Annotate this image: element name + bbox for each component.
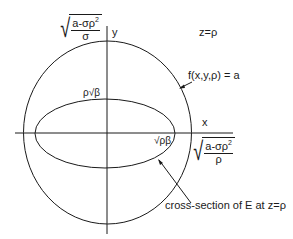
- x-intercept-inner-label: √ρβ: [154, 136, 171, 146]
- numerator: a-σρ: [72, 17, 95, 29]
- exponent: 2: [228, 139, 232, 146]
- y-intercept-outer-label: √ a-σρ2 σ: [58, 14, 102, 43]
- numerator: a-σρ: [205, 140, 228, 152]
- denominator: σ: [82, 31, 89, 43]
- outer-curve-label: f(x,y,ρ) = a: [188, 70, 240, 81]
- x-axis-label: x: [202, 117, 208, 128]
- cross-section-label: cross-section of E at z=ρ: [165, 200, 286, 211]
- inner-curve-pointer: [159, 160, 191, 203]
- radical-icon: √: [193, 138, 203, 164]
- x-intercept-outer-label: √ a-σρ2 ρ: [191, 137, 235, 166]
- y-axis-label: y: [112, 27, 118, 38]
- denominator: ρ: [216, 154, 222, 166]
- exponent: 2: [95, 16, 99, 23]
- y-intercept-inner-label: ρ√β: [83, 88, 100, 98]
- radical-icon: √: [60, 15, 70, 41]
- plane-label: z=ρ: [199, 27, 217, 38]
